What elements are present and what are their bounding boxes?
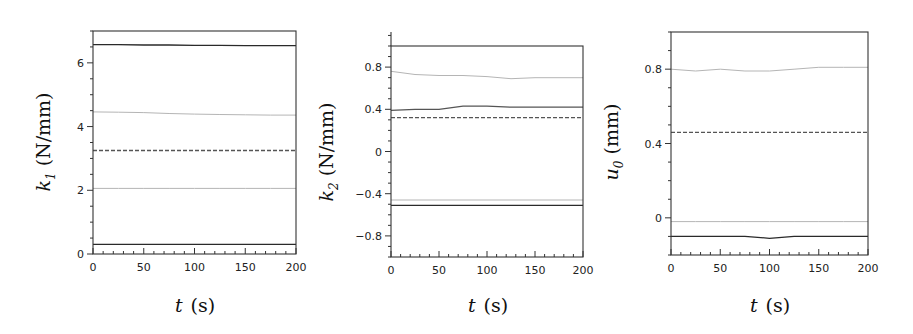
y-tick-label: 0.4 [365,103,383,116]
x-tick-label: 0 [668,262,675,275]
plot-area-k1: 0501001502000246 [77,31,307,274]
x-tick-label: 200 [858,262,879,275]
y-tick-label: 0.8 [645,63,663,76]
x-tick-label: 0 [90,261,97,274]
x-tick-label: 200 [573,264,594,277]
x-tick-label: 150 [808,262,829,275]
y-tick-label: 0 [375,146,382,159]
x-tick-label: 150 [525,264,546,277]
x-tick-label: 50 [432,264,446,277]
x-axis-label-u0: t(s) [750,294,790,316]
y-tick-label: 0 [655,212,662,225]
panel-k1: 0501001502000246 k1(N/mm) t(s) [32,31,307,316]
y-axis-label-u0: u0(mm) [600,104,626,181]
y-tick-label: 6 [77,57,84,70]
y-tick-label: −0.8 [355,230,382,243]
panel-u0: 05010015020000.40.8 u0(mm) t(s) [600,32,879,316]
y-tick-label: 0 [77,248,84,261]
x-tick-label: 0 [388,264,395,277]
plot-frame [93,31,296,254]
y-tick-label: −0.4 [355,188,382,201]
x-tick-label: 100 [759,262,780,275]
series-line-gray-upper [93,112,296,115]
plot-area-k2: 050100150200−0.8−0.400.40.8 [355,32,593,277]
x-axis-label-k2: t(s) [468,294,508,316]
x-tick-label: 50 [137,261,151,274]
x-tick-label: 50 [713,262,727,275]
series-line-black-lower [671,236,868,238]
x-axis-label-k1: t(s) [175,294,215,316]
series-line-gray-upper [671,67,868,71]
plot-area-u0: 05010015020000.40.8 [645,32,879,275]
y-tick-label: 2 [77,184,84,197]
series-line-dark-upper [391,106,583,110]
x-tick-label: 200 [286,261,307,274]
y-tick-label: 0.4 [645,138,663,151]
y-tick-label: 4 [77,121,84,134]
panel-k2: 050100150200−0.8−0.400.40.8 k2(N/mm) t(s… [315,32,594,316]
y-axis-label-k2: k2(N/mm) [315,102,341,201]
series-line-black-upper [93,45,296,46]
x-tick-label: 100 [477,264,498,277]
y-axis-label-k1: k1(N/mm) [32,92,58,191]
y-tick-label: 0.8 [365,61,383,74]
series-line-gray-upper [391,71,583,78]
x-tick-label: 150 [235,261,256,274]
x-tick-label: 100 [184,261,205,274]
figure: 0501001502000246 k1(N/mm) t(s) 050100150… [0,0,913,334]
